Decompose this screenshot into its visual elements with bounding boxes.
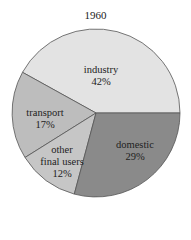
label-transport: transport 17% <box>20 107 70 131</box>
label-other-value: 12% <box>34 168 90 180</box>
label-industry: industry 42% <box>76 64 126 88</box>
label-domestic: domestic 29% <box>105 139 165 163</box>
label-industry-value: 42% <box>76 76 126 88</box>
label-transport-value: 17% <box>20 119 70 131</box>
label-domestic-name: domestic <box>105 139 165 151</box>
label-other-line1: other <box>34 144 90 156</box>
label-transport-name: transport <box>20 107 70 119</box>
label-other-final-users: other final users 12% <box>34 144 90 180</box>
label-other-line2: final users <box>34 156 90 168</box>
label-industry-name: industry <box>76 64 126 76</box>
label-domestic-value: 29% <box>105 151 165 163</box>
